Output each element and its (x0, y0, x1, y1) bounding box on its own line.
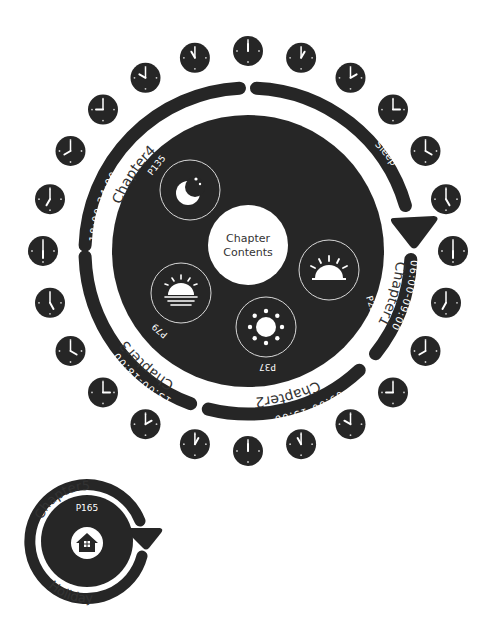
clock-icon (378, 95, 408, 125)
clock-icon (411, 336, 441, 366)
clock-icon (286, 429, 316, 459)
chapter2-page: P37 (259, 362, 276, 372)
clock-icon (56, 136, 86, 166)
clock-icon (180, 43, 210, 73)
clock-icon (286, 43, 316, 73)
clock-icon (336, 63, 366, 93)
clock-icon (411, 136, 441, 166)
clock-icon (378, 377, 408, 407)
clock-icon (88, 377, 118, 407)
clock-icon (336, 409, 366, 439)
clock-icon (35, 288, 65, 318)
holiday-section: Chapter5 P165 Holiday (30, 478, 162, 606)
clock-icon (431, 184, 461, 214)
clock-icon (131, 63, 161, 93)
clock-icon (233, 36, 263, 66)
clock-icon (35, 184, 65, 214)
clock-icon (131, 409, 161, 439)
clock-icon (431, 288, 461, 318)
clock-icon (180, 429, 210, 459)
center-title-line1: Chapter (226, 232, 270, 245)
clock-icon (28, 236, 58, 266)
clock-icon (88, 95, 118, 125)
clock-icon (438, 236, 468, 266)
chapter5-page: P165 (76, 503, 99, 513)
center-title-line2: Contents (223, 246, 273, 259)
center-circle[interactable] (208, 205, 288, 285)
chapter-contents-diagram: Chapter Contents (0, 0, 494, 617)
sleep-arrow-icon (391, 216, 438, 249)
clock-icon (56, 336, 86, 366)
clock-icon (233, 436, 263, 466)
